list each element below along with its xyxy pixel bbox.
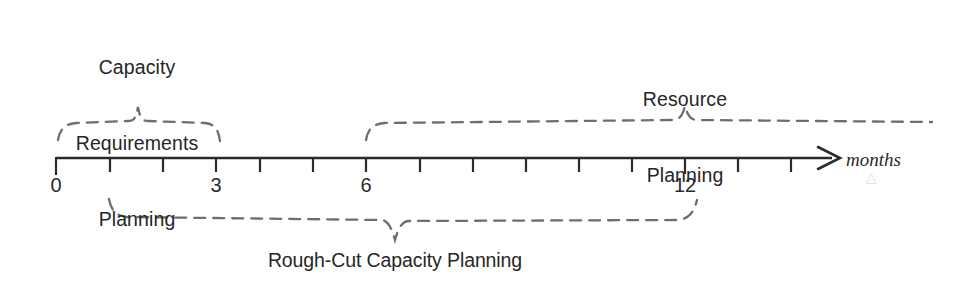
annotation-rough-cut-capacity-planning: Rough-Cut Capacity Planning <box>245 248 545 273</box>
annotation-resource-planning: Resource Planning <box>585 36 785 239</box>
annotation-capacity-requirements-planning: Capacity Requirements Planning <box>17 4 257 283</box>
annotation-line: Capacity <box>17 55 257 80</box>
axis-tick-label-6: 6 <box>346 174 386 197</box>
annotation-line: Requirements <box>17 131 257 156</box>
axis-tick-label-3: 3 <box>196 174 236 197</box>
axis-tick-label-12: 12 <box>665 174 705 197</box>
scan-artifact-mark: △ <box>866 168 877 186</box>
planning-horizon-diagram: Capacity Requirements Planning Resource … <box>0 0 968 292</box>
annotation-line: Resource <box>585 87 785 112</box>
annotation-line: Planning <box>17 207 257 232</box>
axis-tick-label-0: 0 <box>36 174 76 197</box>
